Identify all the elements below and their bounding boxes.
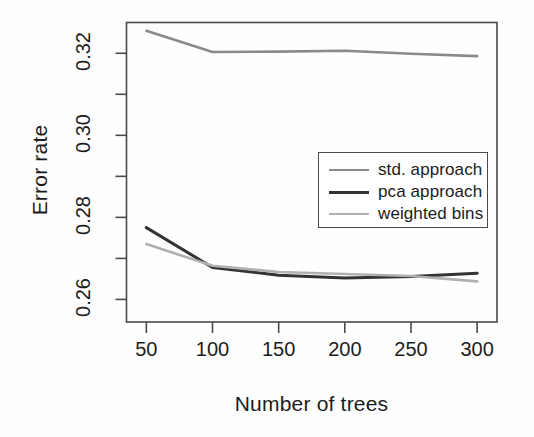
legend-label: weighted bins	[378, 204, 483, 224]
legend-entry-1: pca approach	[327, 181, 482, 203]
legend-entry-0: std. approach	[327, 159, 482, 181]
legend-label: std. approach	[378, 160, 482, 180]
series-line-pca-approach	[146, 228, 477, 278]
chart-figure: Error rate Number of trees 0.260.280.300…	[0, 0, 534, 437]
chart-legend: std. approachpca approachweighted bins	[318, 152, 488, 228]
legend-swatch-line-icon	[329, 169, 369, 171]
series-line-std-approach	[146, 31, 477, 56]
legend-label: pca approach	[378, 182, 482, 202]
legend-swatch-line-icon	[329, 213, 369, 215]
legend-swatch-line-icon	[329, 191, 369, 194]
legend-entry-2: weighted bins	[327, 203, 483, 225]
